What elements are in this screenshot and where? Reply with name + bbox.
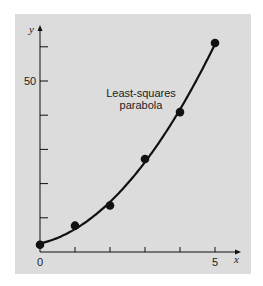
data-point — [211, 39, 220, 48]
data-point — [141, 155, 150, 164]
parabola-curve — [40, 44, 215, 243]
chart-plot — [0, 0, 263, 286]
y-tick-label-50: 50 — [24, 75, 36, 87]
x-tick-label-5: 5 — [212, 256, 218, 268]
annotation-line-2: parabola — [96, 99, 186, 111]
annotation-line-1: Least-squares — [96, 87, 186, 99]
y-axis-arrow-icon — [38, 25, 43, 31]
y-axis-label: y — [29, 23, 34, 35]
parabola-annotation: Least-squares parabola — [96, 87, 186, 111]
data-point — [106, 201, 115, 210]
x-tick-label-0: 0 — [37, 256, 43, 268]
x-axis-label: x — [234, 253, 239, 265]
data-point — [71, 221, 80, 230]
data-point — [36, 241, 45, 250]
